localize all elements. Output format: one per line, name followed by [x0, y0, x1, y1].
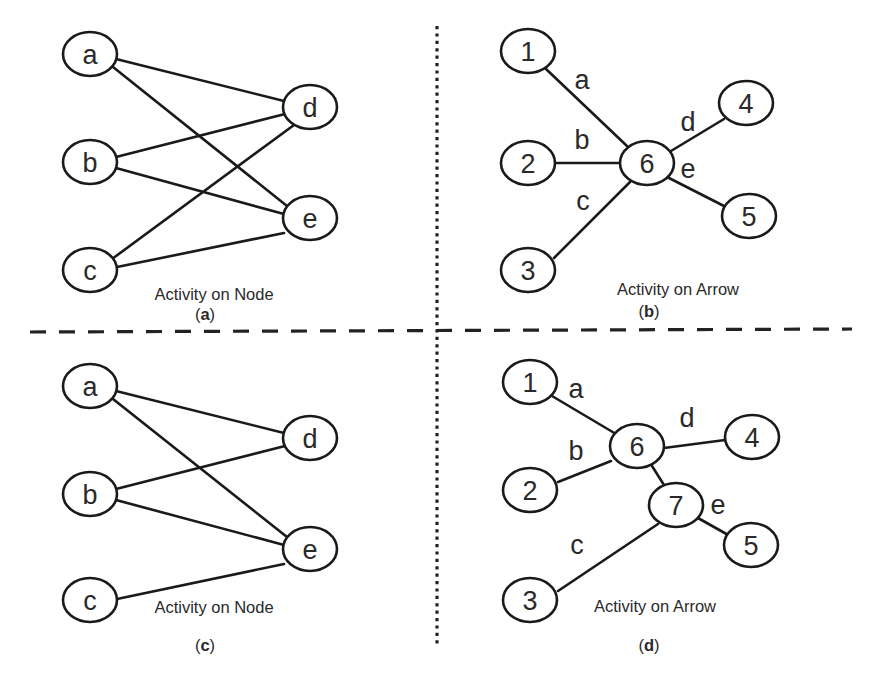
node-6: 6 — [620, 141, 674, 185]
panel-a: abcdeActivity on Node(a) — [63, 32, 337, 323]
node-label: 3 — [520, 256, 535, 286]
node-1: 1 — [501, 29, 555, 73]
node-label: a — [82, 372, 98, 402]
node-4: 4 — [725, 415, 779, 459]
node-7: 7 — [649, 483, 703, 527]
node-a: a — [63, 364, 117, 408]
node-label: c — [83, 256, 97, 286]
edge-7-5 — [698, 518, 730, 536]
edge-c-d — [112, 125, 294, 259]
edge-6-4 — [664, 440, 725, 448]
tag-close-paren: ) — [654, 636, 660, 654]
edge-label: c — [570, 530, 584, 560]
horizontal-divider — [30, 329, 852, 332]
panel-caption: Activity on Arrow — [617, 280, 739, 298]
node-label: 4 — [744, 423, 759, 453]
edge-3-6 — [554, 182, 630, 258]
node-label: b — [82, 480, 97, 510]
node-1: 1 — [503, 360, 557, 404]
nodes: 123645 — [501, 29, 776, 292]
node-label: 5 — [743, 531, 758, 561]
node-label: 2 — [520, 149, 535, 179]
panel-tag: (a) — [195, 305, 215, 323]
node-2: 2 — [503, 468, 557, 512]
edge-label: e — [680, 154, 695, 184]
edges: abdce — [552, 374, 730, 591]
node-label: 4 — [738, 89, 753, 119]
node-label: 1 — [522, 368, 537, 398]
node-label: d — [302, 93, 317, 123]
node-4: 4 — [719, 81, 773, 125]
node-label: 2 — [522, 476, 537, 506]
diagram-panels: abcdeActivity on Node(a)abcde123645Activ… — [63, 29, 779, 654]
node-label: e — [302, 535, 317, 565]
node-c: c — [63, 578, 117, 622]
edge-label: d — [679, 403, 694, 433]
panel-caption: Activity on Arrow — [594, 597, 716, 615]
tag-close-paren: ) — [210, 305, 216, 323]
edge-a-d — [116, 59, 284, 101]
tag-letter: d — [644, 636, 654, 654]
edge-label: a — [574, 65, 590, 95]
node-e: e — [283, 527, 337, 571]
panel-tag: (b) — [638, 302, 659, 320]
node-d: d — [283, 416, 337, 460]
edge-label: e — [710, 490, 725, 520]
node-label: d — [302, 424, 317, 454]
panel-caption: Activity on Node — [154, 598, 273, 616]
panel-caption: Activity on Node — [154, 285, 273, 303]
node-label: a — [82, 40, 98, 70]
edges — [112, 59, 294, 267]
node-5: 5 — [724, 523, 778, 567]
node-label: b — [82, 148, 97, 178]
nodes: abcde — [63, 32, 337, 292]
node-label: 7 — [668, 491, 683, 521]
edge-a-d — [116, 391, 284, 433]
node-c: c — [63, 248, 117, 292]
node-label: e — [302, 204, 317, 234]
tag-close-paren: ) — [210, 636, 216, 654]
activity-network-diagram: abcdeActivity on Node(a)abcde123645Activ… — [0, 0, 872, 686]
tag-letter: c — [200, 636, 209, 654]
edge-1-6 — [552, 396, 616, 434]
panel-c: abcdeActivity on Node(c) — [63, 364, 337, 654]
panel-d: abdce1236745Activity on Arrow(d) — [503, 360, 779, 654]
edge-label: a — [568, 374, 584, 404]
node-label: 5 — [741, 202, 756, 232]
nodes: abcde — [63, 364, 337, 622]
tag-close-paren: ) — [654, 302, 660, 320]
node-d: d — [283, 85, 337, 129]
node-b: b — [63, 140, 117, 184]
node-label: c — [83, 586, 97, 616]
edge-6-7 — [652, 466, 664, 485]
edge-b-e — [116, 500, 284, 545]
edge-2-6 — [558, 461, 611, 482]
edge-c-e — [117, 564, 284, 599]
node-label: 6 — [629, 432, 644, 462]
node-e: e — [283, 196, 337, 240]
node-5: 5 — [722, 194, 776, 238]
node-3: 3 — [501, 248, 555, 292]
node-3: 3 — [503, 578, 557, 622]
node-6: 6 — [610, 424, 664, 468]
panel-tag: (d) — [638, 636, 659, 654]
edge-6-4 — [671, 119, 724, 151]
tag-letter: b — [644, 302, 654, 320]
edge-label: c — [576, 186, 590, 216]
node-a: a — [63, 32, 117, 76]
node-label: 6 — [639, 149, 654, 179]
edge-label: b — [574, 125, 589, 155]
node-2: 2 — [501, 141, 555, 185]
edge-b-e — [116, 168, 284, 214]
edges — [113, 391, 287, 599]
nodes: 1236745 — [503, 360, 779, 622]
node-label: 3 — [522, 586, 537, 616]
edge-label: d — [680, 107, 695, 137]
node-b: b — [63, 472, 117, 516]
panel-b: abcde123645Activity on Arrow(b) — [501, 29, 776, 320]
panel-tag: (c) — [195, 636, 215, 654]
edge-label: b — [568, 436, 583, 466]
edge-b-d — [116, 446, 285, 489]
node-label: 1 — [520, 37, 535, 67]
